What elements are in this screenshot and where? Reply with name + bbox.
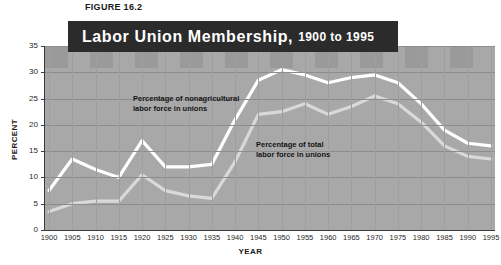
gridline-vertical — [468, 46, 469, 230]
x-axis-title: YEAR — [0, 247, 501, 256]
gridline-horizontal — [45, 125, 495, 126]
annotation-total-line2: labor force in unions — [256, 150, 330, 160]
gridline-vertical — [375, 46, 376, 230]
y-tick-mark — [41, 230, 45, 231]
annotation-nonagricultural-line2: labor force in unions — [133, 104, 239, 114]
gridline-vertical — [491, 46, 492, 230]
x-tick-label: 1965 — [338, 234, 364, 242]
gridline-vertical — [142, 46, 143, 230]
x-tick-label: 1910 — [83, 234, 109, 242]
plot-top-band — [450, 46, 473, 68]
y-tick-mark — [41, 72, 45, 73]
x-tick-label: 1945 — [245, 234, 271, 242]
x-tick-label: 1920 — [129, 234, 155, 242]
gridline-vertical — [189, 46, 190, 230]
x-tick-label: 1975 — [385, 234, 411, 242]
x-tick-label: 1915 — [106, 234, 132, 242]
y-tick-mark — [41, 151, 45, 152]
y-tick-label: 10 — [18, 173, 38, 181]
y-tick-mark — [41, 46, 45, 47]
gridline-vertical — [212, 46, 213, 230]
x-axis-line — [44, 230, 495, 231]
gridline-horizontal — [45, 72, 495, 73]
annotation-nonagricultural: Percentage of nonagricultural labor forc… — [133, 94, 239, 113]
y-axis-title: PERCENT — [10, 110, 19, 170]
figure-container: FIGURE 16.2 Labor Union Membership, 1900… — [0, 0, 501, 265]
x-tick-label: 1900 — [36, 234, 62, 242]
annotation-nonagricultural-line1: Percentage of nonagricultural — [133, 94, 239, 104]
y-tick-label: 0 — [18, 226, 38, 234]
x-tick-label: 1990 — [455, 234, 481, 242]
annotation-total: Percentage of total labor force in union… — [256, 140, 330, 159]
gridline-horizontal — [45, 99, 495, 100]
gridline-vertical — [351, 46, 352, 230]
series-lines — [45, 46, 495, 230]
x-tick-label: 1980 — [408, 234, 434, 242]
gridline-vertical — [398, 46, 399, 230]
figure-number-label: FIGURE 16.2 — [85, 2, 142, 12]
y-tick-mark — [41, 204, 45, 205]
plot-area — [45, 46, 495, 230]
y-tick-label: 5 — [18, 200, 38, 208]
x-tick-label: 1960 — [315, 234, 341, 242]
x-tick-label: 1925 — [152, 234, 178, 242]
gridline-vertical — [282, 46, 283, 230]
chart-title-bar: Labor Union Membership, 1900 to 1995 — [68, 21, 398, 52]
gridline-vertical — [165, 46, 166, 230]
annotation-total-line1: Percentage of total — [256, 140, 330, 150]
y-tick-label: 35 — [18, 42, 38, 50]
gridline-horizontal — [45, 177, 495, 178]
x-tick-label: 1930 — [176, 234, 202, 242]
chart-title-years: 1900 to 1995 — [298, 30, 374, 44]
gridline-vertical — [72, 46, 73, 230]
x-tick-label: 1940 — [222, 234, 248, 242]
x-tick-label: 1995 — [478, 234, 501, 242]
gridline-vertical — [421, 46, 422, 230]
y-tick-mark — [41, 125, 45, 126]
gridline-vertical — [235, 46, 236, 230]
x-tick-label: 1985 — [431, 234, 457, 242]
y-tick-label: 20 — [18, 121, 38, 129]
gridline-horizontal — [45, 204, 495, 205]
y-tick-mark — [41, 177, 45, 178]
gridline-vertical — [444, 46, 445, 230]
gridline-vertical — [119, 46, 120, 230]
chart-title-main: Labor Union Membership, — [82, 28, 293, 46]
y-tick-label: 15 — [18, 147, 38, 155]
gridline-vertical — [258, 46, 259, 230]
plot-top-band — [405, 46, 428, 68]
y-tick-label: 25 — [18, 95, 38, 103]
x-tick-label: 1970 — [362, 234, 388, 242]
gridline-vertical — [305, 46, 306, 230]
gridline-vertical — [328, 46, 329, 230]
x-tick-label: 1955 — [292, 234, 318, 242]
gridline-vertical — [96, 46, 97, 230]
x-tick-label: 1905 — [59, 234, 85, 242]
y-tick-mark — [41, 99, 45, 100]
x-tick-label: 1950 — [269, 234, 295, 242]
series-line-nonagricultural — [49, 70, 491, 191]
x-tick-label: 1935 — [199, 234, 225, 242]
gridline-vertical — [49, 46, 50, 230]
y-tick-label: 30 — [18, 68, 38, 76]
